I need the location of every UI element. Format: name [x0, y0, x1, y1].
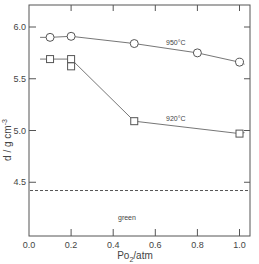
data-point-square [68, 56, 75, 63]
data-point-circle [46, 33, 54, 41]
data-point-circle [67, 32, 75, 40]
x-tick-label: 0.8 [191, 240, 204, 250]
y-tick-label: 5.0 [13, 126, 26, 136]
data-series [40, 32, 244, 137]
data-point-square [68, 63, 75, 70]
data-point-circle [236, 58, 244, 66]
x-tick-label: 1.0 [233, 240, 246, 250]
axis-ticks [29, 5, 250, 236]
label-920: 920°C [166, 115, 186, 122]
y-tick-label: 5.5 [13, 74, 26, 84]
density-chart: 0.00.20.40.60.81.04.55.05.56.0 950°C 920… [0, 0, 259, 264]
y-axis-title: d / g cm-3 [1, 119, 13, 161]
data-point-square [131, 118, 138, 125]
x-tick-label: 0.6 [149, 240, 162, 250]
plot-frame [29, 5, 250, 236]
y-tick-label: 4.5 [13, 177, 26, 187]
data-point-circle [193, 49, 201, 57]
label-green: green [118, 214, 136, 222]
data-point-circle [130, 40, 138, 48]
y-tick-label: 6.0 [13, 22, 26, 32]
data-point-square [236, 130, 243, 137]
x-tick-label: 0.4 [107, 240, 120, 250]
series-920 [40, 56, 244, 138]
data-point-square [47, 56, 54, 63]
x-tick-label: 0.2 [65, 240, 78, 250]
x-axis-title: Po2/atm [117, 250, 153, 263]
label-950: 950°C [166, 39, 186, 46]
x-tick-label: 0.0 [23, 240, 36, 250]
